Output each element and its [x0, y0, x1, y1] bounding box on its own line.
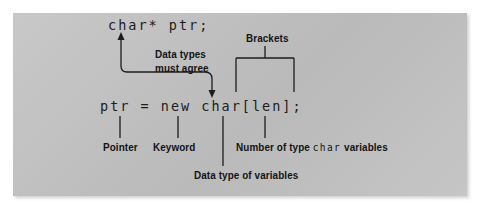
code-line-allocation: ptr = new char[len];	[100, 98, 303, 114]
annotation-keyword: Keyword	[153, 141, 195, 153]
annotation-number-code: char	[313, 141, 342, 153]
figure-container: char* ptr; ptr = new char[len]; Data typ…	[0, 0, 482, 217]
brackets-connector	[236, 46, 294, 92]
annotation-data-type-of-variables: Data type of variables	[194, 169, 298, 181]
arrowhead-down-icon	[209, 90, 216, 98]
annotation-number-of-type-char-variables: Number of type char variables	[236, 141, 388, 153]
annotation-number-suffix: variables	[341, 141, 388, 153]
annotation-data-types-line2: must agree	[155, 62, 209, 74]
annotation-pointer: Pointer	[103, 141, 138, 153]
arrowhead-up-icon	[118, 32, 125, 40]
code-line-declaration: char* ptr;	[108, 17, 209, 33]
annotation-number-prefix: Number of type	[236, 141, 313, 153]
annotation-brackets: Brackets	[246, 32, 289, 44]
annotation-data-types-line1: Data types	[155, 48, 206, 60]
